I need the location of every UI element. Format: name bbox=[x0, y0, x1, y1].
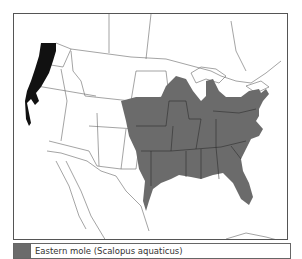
legend-swatch bbox=[14, 244, 31, 258]
legend-label: Eastern mole (Scalopus aquaticus) bbox=[31, 246, 183, 256]
map-graphic bbox=[13, 13, 288, 240]
legend: Eastern mole (Scalopus aquaticus) bbox=[13, 243, 291, 259]
range-map bbox=[13, 13, 288, 240]
western-coastal-range bbox=[25, 43, 56, 126]
eastern-mole-range bbox=[121, 76, 269, 211]
